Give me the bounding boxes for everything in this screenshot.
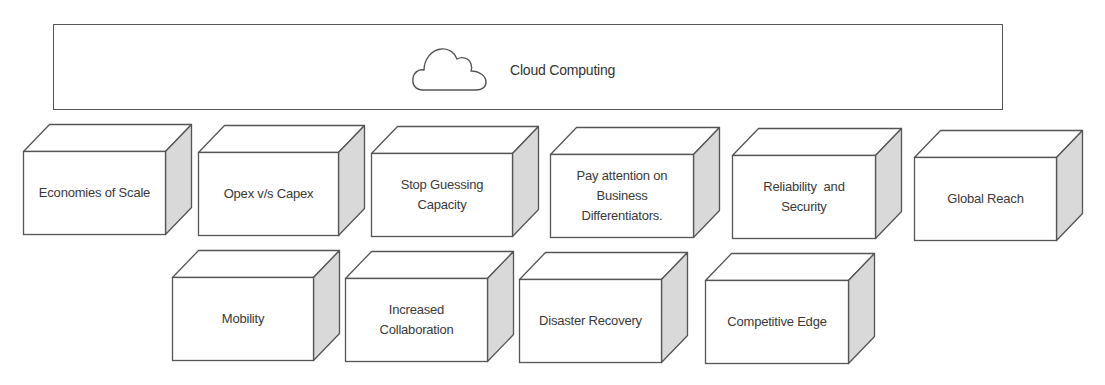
cube-label: Economies of Scale xyxy=(23,151,166,234)
benefit-cube-global-reach: Global Reach xyxy=(914,130,1086,244)
benefit-cube-reliability-and-security: Reliability and Security xyxy=(732,128,904,242)
cube-label: Stop Guessing Capacity xyxy=(371,153,513,236)
benefit-cube-increased-collaboration: Increased Collaboration xyxy=(345,251,517,365)
benefit-cube-competitive-edge: Competitive Edge xyxy=(705,253,877,367)
cube-label: Mobility xyxy=(172,277,314,360)
benefit-cube-opex-vs-capex: Opex v/s Capex xyxy=(198,125,370,239)
benefit-cube-economies-of-scale: Economies of Scale xyxy=(23,124,195,238)
cube-label: Disaster Recovery xyxy=(519,279,662,362)
cube-label: Pay attention on Business Differentiator… xyxy=(550,154,694,237)
cube-label: Global Reach xyxy=(914,157,1057,240)
cube-label: Reliability and Security xyxy=(732,155,876,238)
cube-label: Increased Collaboration xyxy=(345,278,488,361)
benefit-cube-mobility: Mobility xyxy=(172,250,344,364)
cube-label: Opex v/s Capex xyxy=(198,152,339,235)
benefit-cube-business-differentiators: Pay attention on Business Differentiator… xyxy=(550,127,722,241)
benefit-cube-disaster-recovery: Disaster Recovery xyxy=(519,252,691,366)
cube-label: Competitive Edge xyxy=(705,280,849,363)
benefit-cube-stop-guessing-capacity: Stop Guessing Capacity xyxy=(371,126,543,240)
banner-title: Cloud Computing xyxy=(510,62,615,78)
cloud-icon xyxy=(411,44,489,94)
